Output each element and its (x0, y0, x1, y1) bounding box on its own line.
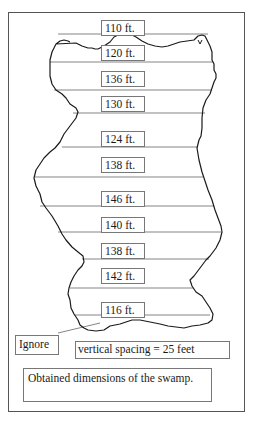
measurement-label: 130 ft. (101, 96, 145, 112)
measurement-label: 110 ft. (101, 20, 145, 36)
measurement-label: 116 ft. (101, 302, 145, 318)
measurement-label: 124 ft. (101, 131, 145, 147)
measurement-label: 140 ft. (101, 217, 145, 233)
measurement-label: 136 ft. (101, 71, 145, 87)
measurement-label: 138 ft. (101, 157, 145, 173)
measurement-label: 146 ft. (101, 191, 145, 207)
measurement-label: 120 ft. (101, 45, 145, 61)
swamp-outline-map (0, 0, 256, 424)
caption: Obtained dimensions of the swamp. (23, 368, 212, 402)
measurement-label: 138 ft. (101, 243, 145, 259)
ignore-label: Ignore (15, 335, 59, 355)
measurement-label: 142 ft. (101, 268, 145, 284)
vertical-spacing-note: vertical spacing = 25 feet (75, 341, 230, 359)
